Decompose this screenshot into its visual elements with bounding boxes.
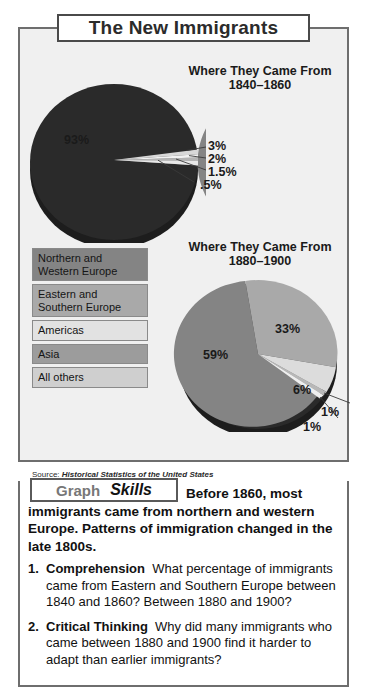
question-body: Comprehension What percentage of immigra… [46,561,340,611]
question-term: Critical Thinking [46,619,148,634]
badge-word-skills: Skills [110,481,152,499]
question-item-1: 1. Comprehension What percentage of immi… [28,561,340,611]
pie-1-label-1-5: 1.5% [208,165,237,179]
pie-2-label-33: 33% [275,322,300,336]
legend: Northern and Western Europe Eastern and … [32,248,148,391]
page-title: The New Immigrants [89,17,278,39]
pie-2-label-59: 59% [203,348,228,362]
legend-item-americas[interactable]: Americas [32,320,148,341]
legend-item-asia[interactable]: Asia [32,344,148,365]
pie-1-label-3: 3% [208,139,226,153]
question-item-2: 2. Critical Thinking Why did many immigr… [28,619,340,669]
pie-chart-1840-1860 [26,78,206,243]
legend-label: Eastern and Southern Europe [38,288,121,313]
pie-1-label-93: 93% [64,133,89,147]
legend-label: All others [38,371,84,383]
question-term: Comprehension [46,561,145,576]
chart-1-heading-line1: Where They Came From [172,64,348,78]
pie-2-label-1-b: 1% [303,420,321,434]
badge-word-graph: Graph [56,482,100,499]
chart-2-heading-line1: Where They Came From [172,240,348,254]
legend-label: Northern and Western Europe [38,252,117,277]
pie-1-label-2: 2% [208,152,226,166]
question-list: 1. Comprehension What percentage of immi… [28,561,340,676]
question-body: Critical Thinking Why did many immigrant… [46,619,340,669]
pie-1-label-0-5: .5% [200,178,222,192]
legend-label: Americas [38,324,84,336]
graph-skills-badge: Graph Skills [30,478,178,502]
question-number: 1. [28,561,46,611]
legend-item-all-others[interactable]: All others [32,367,148,388]
legend-label: Asia [38,348,59,360]
pie-2-label-1-a: 1% [321,405,339,419]
question-number: 2. [28,619,46,669]
legend-item-eastern-southern-europe[interactable]: Eastern and Southern Europe [32,284,148,317]
pie-2-label-6: 6% [293,383,311,397]
chart-2-heading: Where They Came From 1880–1900 [172,240,348,268]
legend-item-northern-western-europe[interactable]: Northern and Western Europe [32,248,148,281]
infographic-page: The New Immigrants Where They Came From … [0,0,367,699]
title-banner: The New Immigrants [57,14,310,42]
chart-2-heading-line2: 1880–1900 [172,254,348,268]
